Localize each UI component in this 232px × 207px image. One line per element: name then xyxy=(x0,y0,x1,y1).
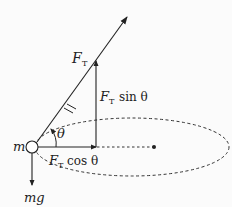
tension-hash-mark xyxy=(64,108,73,113)
horizontal-component-label-sub: T xyxy=(58,161,64,170)
angle-arc xyxy=(51,129,56,147)
angle-label: θ xyxy=(57,126,65,141)
tension-hash-mark xyxy=(67,104,76,109)
vertical-component-label-rest: sin θ xyxy=(119,90,148,104)
vertical-component-label-sub: T xyxy=(109,97,115,106)
tension-vector xyxy=(37,17,127,142)
mass-label: m xyxy=(13,139,25,154)
center-point xyxy=(152,145,156,149)
tension-subscript: T xyxy=(82,59,88,68)
force-diagram: m F T θ F T sin θ F T cos θ mg xyxy=(0,0,232,207)
weight-label: mg xyxy=(24,190,45,205)
mass-bob xyxy=(26,141,38,153)
horizontal-component-label-rest: cos θ xyxy=(67,154,98,168)
